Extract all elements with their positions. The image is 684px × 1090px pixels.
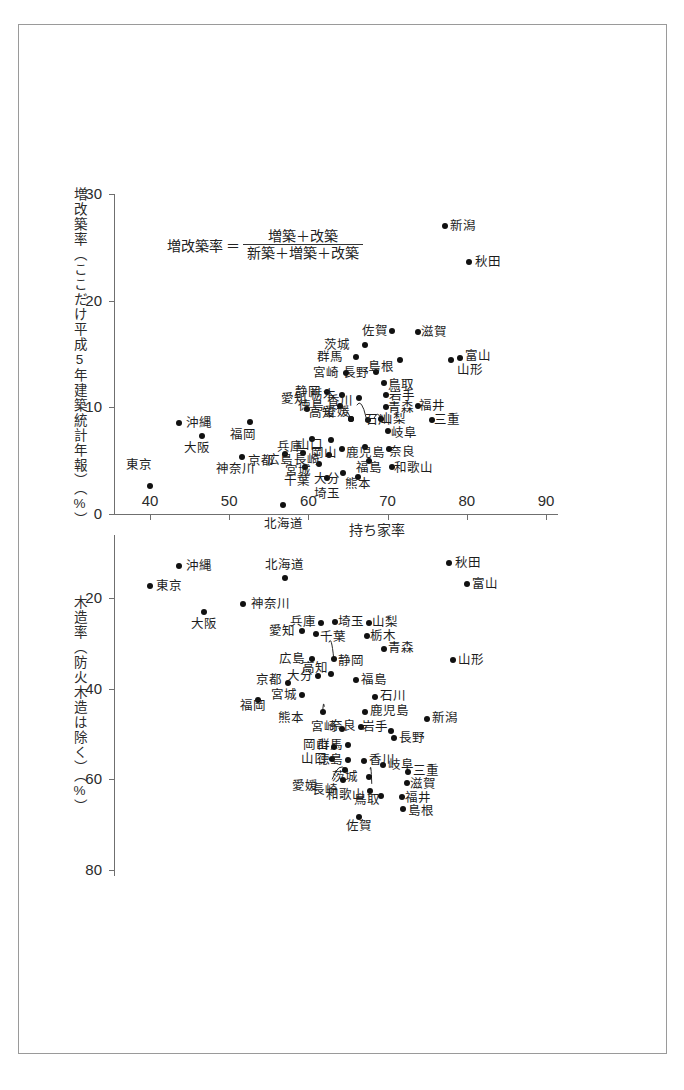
data-point	[361, 758, 367, 764]
upper-x-tick	[229, 514, 230, 520]
formula-denominator: 新築＋増築＋改築	[243, 244, 363, 261]
point-label: 石川	[380, 690, 406, 703]
point-label: 北海道	[264, 517, 303, 530]
lower-y-axis	[114, 535, 115, 876]
point-label: 東京	[126, 459, 152, 472]
point-label: 千葉	[320, 631, 346, 644]
point-label: 福井	[419, 400, 445, 413]
data-point	[383, 392, 389, 398]
data-point	[450, 657, 456, 663]
point-label: 群馬	[317, 351, 343, 364]
point-label: 長野	[399, 731, 425, 744]
data-point	[353, 354, 359, 360]
lower-y-tick	[109, 870, 114, 871]
upper-x-tick	[308, 514, 309, 520]
data-point	[466, 259, 472, 265]
point-label: 宮崎	[313, 367, 339, 380]
upper-y-tick-label: 30	[85, 185, 102, 202]
data-point	[372, 694, 378, 700]
point-label: 熊本	[345, 478, 371, 491]
data-point	[381, 380, 387, 386]
data-point	[345, 757, 351, 763]
upper-y-tick	[109, 514, 114, 515]
data-point	[342, 767, 348, 773]
data-point	[400, 806, 406, 812]
data-point	[345, 742, 351, 748]
upper-x-tick-label: 80	[458, 492, 475, 509]
point-label: 新潟	[450, 220, 476, 233]
data-point	[299, 692, 305, 698]
point-label: 和歌山	[394, 462, 433, 475]
lower-y-tick-label: 60	[85, 770, 102, 787]
data-point	[464, 581, 470, 587]
point-label: 静岡	[338, 654, 364, 667]
upper-x-tick-label: 90	[538, 492, 555, 509]
lower-y-tick-label: 80	[85, 861, 102, 878]
point-label: 秋田	[475, 256, 501, 269]
upper-x-tick	[467, 514, 468, 520]
point-label: 福島	[361, 673, 387, 686]
data-point	[366, 774, 372, 780]
upper-y-axis-title: 増改築率（ここだけ平成5年建築統計年報）（%）	[69, 187, 89, 497]
data-point	[340, 470, 346, 476]
formula-label: 増改築率	[167, 235, 223, 255]
data-point	[380, 762, 386, 768]
point-label: 秋田	[455, 556, 481, 569]
point-label: 山形	[458, 653, 484, 666]
data-point	[280, 502, 286, 508]
data-point	[299, 628, 305, 634]
point-label: 奈良	[330, 720, 356, 733]
point-label: 沖縄	[186, 560, 212, 573]
point-label: 沖縄	[186, 417, 212, 430]
data-point	[339, 446, 345, 452]
point-label: 佐賀	[346, 820, 372, 833]
data-point	[340, 777, 346, 783]
point-label: 岩手	[362, 720, 388, 733]
point-label: 岐阜	[391, 427, 417, 440]
point-label: 富山	[465, 350, 491, 363]
point-label: 福島	[356, 462, 382, 475]
point-label: 青森	[388, 642, 414, 655]
point-label: 滋賀	[421, 325, 447, 338]
lower-leader-lines	[19, 535, 666, 875]
point-label: 滋賀	[410, 778, 436, 791]
upper-y-axis	[114, 194, 115, 515]
data-point	[331, 744, 337, 750]
upper-x-tick-label: 50	[221, 492, 238, 509]
data-point	[328, 437, 334, 443]
upper-x-tick	[150, 514, 151, 520]
formula-numerator: 増築＋改築	[264, 228, 342, 244]
lower-y-tick	[109, 598, 114, 599]
data-point	[405, 769, 411, 775]
data-point	[424, 716, 430, 722]
point-label: 奈良	[389, 446, 415, 459]
data-point	[356, 395, 362, 401]
data-point	[353, 677, 359, 683]
data-point	[385, 428, 391, 434]
formula-annotation: 増改築率 ＝ 増築＋改築 新築＋増築＋改築	[167, 228, 363, 261]
point-label: 宮城	[285, 465, 311, 478]
point-label: 福井	[405, 792, 431, 805]
upper-x-tick-label: 70	[379, 492, 396, 509]
point-label: 京都	[256, 673, 282, 686]
lower-y-tick	[109, 689, 114, 690]
data-point	[328, 671, 334, 677]
data-point	[331, 656, 337, 662]
upper-y-tick-label: 20	[85, 292, 102, 309]
data-point	[442, 223, 448, 229]
data-point	[285, 680, 291, 686]
point-label: 熊本	[278, 711, 304, 724]
point-label: 新潟	[432, 711, 458, 724]
point-label: 神奈川	[251, 598, 290, 611]
point-label: 鹿児島	[346, 447, 385, 460]
point-label: 青森	[388, 402, 414, 415]
data-point	[313, 631, 319, 637]
point-label: 富山	[472, 578, 498, 591]
data-point	[389, 328, 395, 334]
point-label: 香川	[327, 395, 353, 408]
data-point	[332, 619, 338, 625]
upper-x-tick-label: 40	[142, 492, 159, 509]
lower-scatter-chart: 木造率（防火木造は除く）（%） 20406080 沖縄北海道東京神奈川大阪愛知兵…	[19, 535, 666, 875]
data-point	[320, 709, 326, 715]
data-point	[147, 483, 153, 489]
